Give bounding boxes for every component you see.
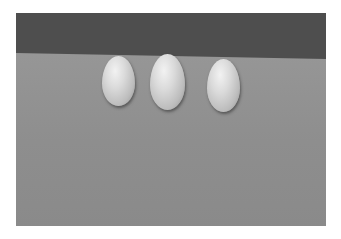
photo-frame [16,13,326,226]
dark-background-wall [16,13,326,59]
egg-3 [207,59,240,112]
egg-2 [150,54,185,110]
egg-1 [102,56,135,106]
